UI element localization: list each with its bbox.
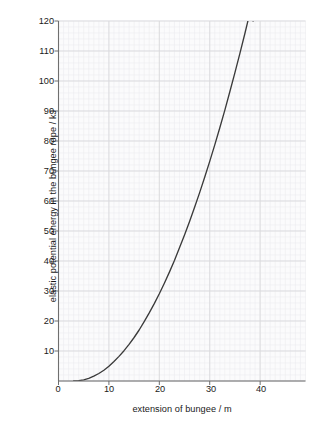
chart-figure: elastic potential energy in the bungee r… [0, 0, 322, 433]
y-tick-label-60: 60 [28, 197, 54, 206]
x-tick-label-10: 10 [94, 385, 124, 394]
x-tick-label-20: 20 [145, 385, 175, 394]
y-axis-tick-labels: 120 110 100 90 80 70 60 50 40 30 20 10 [26, 0, 54, 433]
y-tick-label-30: 30 [28, 287, 54, 296]
x-axis-title: extension of bungee / m [58, 404, 306, 414]
y-tick-label-80: 80 [28, 137, 54, 146]
x-tick-label-0: 0 [43, 385, 73, 394]
y-tick-label-20: 20 [28, 317, 54, 326]
y-tick-label-90: 90 [28, 107, 54, 116]
y-tick-label-100: 100 [28, 77, 54, 86]
x-tick-label-30: 30 [196, 385, 226, 394]
y-tick-label-70: 70 [28, 167, 54, 176]
x-tick-label-40: 40 [246, 385, 276, 394]
y-tick-label-50: 50 [28, 227, 54, 236]
y-tick-label-110: 110 [28, 47, 54, 56]
y-tick-label-10: 10 [28, 347, 54, 356]
y-tick-label-120: 120 [28, 17, 54, 26]
y-tick-label-40: 40 [28, 257, 54, 266]
